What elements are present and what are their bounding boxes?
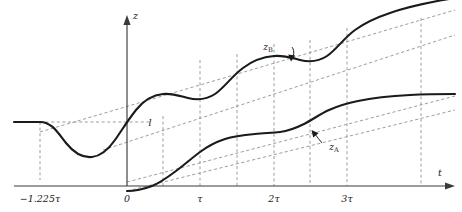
figure-canvas: z t l −1.225τ 0 τ 2τ 3τ zB zA [0, 0, 462, 212]
envelope-guides [40, 10, 455, 191]
t-axis [14, 182, 455, 189]
curve-label-zb-subscript: B [268, 46, 273, 54]
curve-label-za-subscript: A [333, 146, 339, 154]
level-label-l: l [148, 117, 151, 128]
za-leader-arrowhead [312, 130, 319, 138]
t-axis-label: t [438, 167, 442, 178]
lower-envelope-a [127, 110, 455, 191]
curve-label-zb: zB [262, 42, 273, 54]
x-tick-label-3tau: 3τ [341, 193, 353, 204]
upper-curve-zb [14, 0, 455, 157]
vertical-guides [40, 18, 421, 186]
curve-label-za: zA [328, 142, 339, 154]
z-axis-label: z [132, 10, 139, 21]
z-axis [123, 15, 130, 186]
plot-svg: z t l −1.225τ 0 τ 2τ 3τ zB zA [0, 0, 462, 212]
z-axis-arrowhead [123, 15, 130, 25]
x-tick-label-2tau: 2τ [267, 193, 280, 204]
t-axis-arrowhead [445, 182, 455, 189]
x-tick-label-neg1225tau: −1.225τ [20, 193, 61, 204]
upper-envelope-b [40, 10, 455, 132]
x-tick-label-zero: 0 [124, 193, 130, 204]
x-tick-label-tau: τ [197, 193, 203, 204]
upper-envelope-a [127, 96, 455, 182]
